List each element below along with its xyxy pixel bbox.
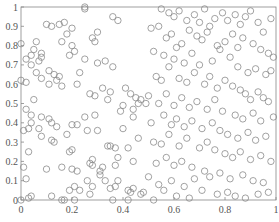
x-tick-label: 0.6: [168, 204, 181, 215]
y-tick-label: 0: [13, 195, 18, 206]
x-tick-label: 0.2: [66, 204, 79, 215]
x-tick-label: 1: [274, 204, 279, 215]
y-tick-label: 0.1: [6, 175, 19, 186]
y-tick-label: 0.5: [6, 98, 19, 109]
y-tick-label: 0.9: [6, 21, 19, 32]
x-tick-label: 0: [19, 204, 24, 215]
y-tick-label: 0.7: [6, 59, 19, 70]
y-tick-label: 0.8: [6, 40, 19, 51]
x-tick-label: 0.4: [117, 204, 130, 215]
y-tick-label: 0.3: [6, 137, 19, 148]
scatter-chart: 00.20.40.60.81 00.10.20.30.40.50.60.70.8…: [0, 0, 279, 222]
x-tick-label: 0.8: [219, 204, 232, 215]
plot-area: [21, 7, 276, 200]
scatter-plot-svg: 00.20.40.60.81 00.10.20.30.40.50.60.70.8…: [0, 0, 279, 222]
y-tick-label: 0.6: [6, 79, 19, 90]
y-tick-label: 0.4: [6, 117, 19, 128]
y-tick-label: 0.2: [6, 156, 19, 167]
y-tick-label: 1: [13, 2, 18, 13]
